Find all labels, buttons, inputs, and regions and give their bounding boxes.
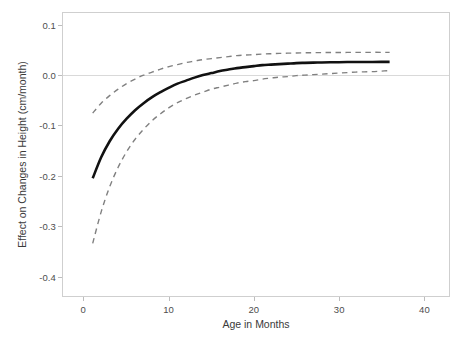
y-tick-mark [58,226,62,227]
y-tick-mark [58,277,62,278]
chart-figure: 0.10.0-0.1-0.2-0.3-0.4010203040 Effect o… [0,0,467,346]
y-tick-mark [58,125,62,126]
x-tick-mark [83,297,84,301]
plot-area [62,12,450,297]
y-tick-mark [58,25,62,26]
x-tick-mark [254,297,255,301]
plot-canvas [63,13,449,296]
series-line-2 [93,71,390,244]
x-tick-mark [169,297,170,301]
x-tick-mark [339,297,340,301]
x-tick-label: 0 [81,304,86,315]
y-axis-title: Effect on Changes in Height (cm/month) [14,12,30,297]
series-line-0 [93,62,390,178]
x-tick-label: 30 [334,304,345,315]
x-tick-label: 10 [163,304,174,315]
y-tick-mark [58,75,62,76]
x-tick-label: 20 [248,304,259,315]
x-tick-mark [424,297,425,301]
x-tick-label: 40 [419,304,430,315]
y-tick-mark [58,176,62,177]
x-axis-title: Age in Months [62,318,450,330]
